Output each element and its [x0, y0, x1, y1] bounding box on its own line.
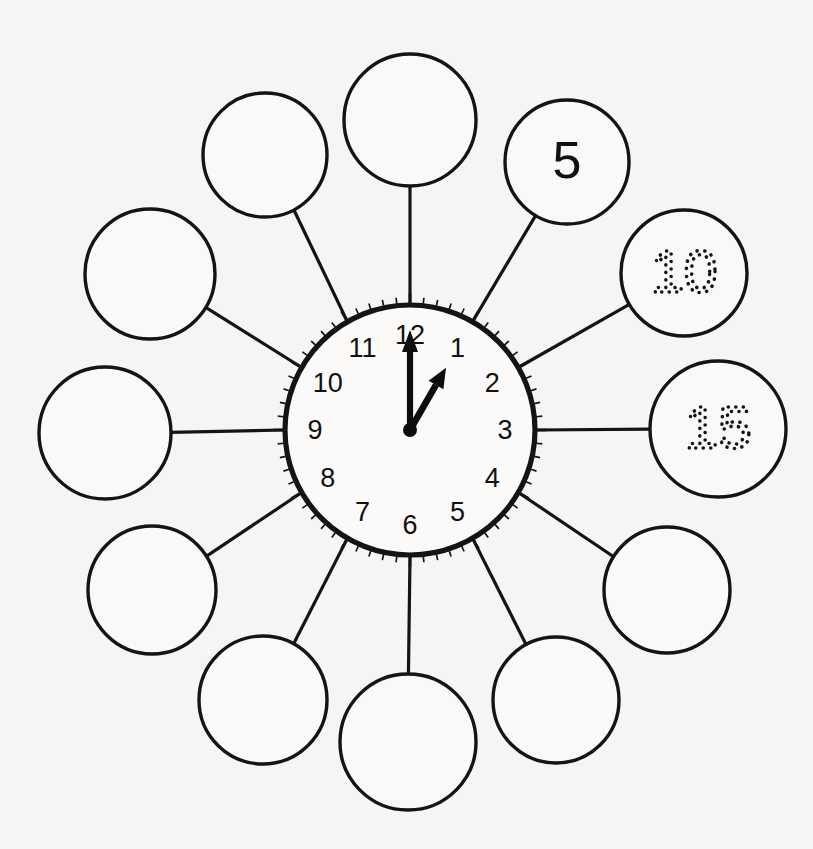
tick-minute — [504, 515, 508, 519]
connector-line-11 — [293, 209, 347, 321]
tick-minute — [462, 546, 464, 551]
clock-numeral-2: 2 — [485, 368, 500, 398]
bubble-value-3: 15 — [685, 394, 752, 461]
bubble-outline-6[interactable] — [340, 674, 476, 810]
answer-bubble-9[interactable] — [39, 367, 171, 499]
tick-minute — [462, 308, 464, 313]
tick-minute — [449, 304, 451, 310]
tick-minute — [332, 322, 336, 327]
tick-minute — [396, 556, 397, 562]
tick-minute — [288, 482, 293, 484]
answer-bubble-11[interactable] — [203, 93, 327, 217]
tick-minute — [513, 352, 518, 356]
tick-minute — [311, 515, 315, 519]
answer-bubble-3[interactable]: 15 — [650, 361, 786, 497]
clock-numeral-5: 5 — [450, 497, 465, 527]
tick-minute — [485, 322, 489, 327]
tick-minute — [382, 300, 383, 306]
connector-line-8 — [206, 493, 301, 557]
tick-minute — [284, 469, 290, 471]
tick-minute — [536, 443, 542, 444]
bubble-value-1: 5 — [553, 131, 582, 189]
tick-minute — [504, 341, 508, 345]
clock-numeral-7: 7 — [355, 497, 370, 527]
connector-line-3 — [536, 429, 651, 430]
bubble-outline-10[interactable] — [85, 209, 215, 339]
answer-bubble-7[interactable] — [199, 636, 327, 764]
tick-minute — [531, 389, 537, 391]
tick-minute — [280, 456, 286, 457]
tick-minute — [495, 524, 499, 528]
tick-minute — [396, 298, 397, 304]
answer-bubble-1[interactable]: 5 — [505, 100, 629, 224]
clock-numeral-1: 1 — [450, 333, 465, 363]
clock-numeral-9: 9 — [307, 415, 322, 445]
tick-minute — [332, 533, 336, 538]
tick-minute — [534, 456, 540, 457]
answer-bubble-12[interactable] — [344, 54, 476, 186]
bubble-outline-12[interactable] — [344, 54, 476, 186]
tick-minute — [382, 554, 383, 560]
tick-minute — [436, 554, 437, 560]
tick-minute — [436, 300, 437, 306]
tick-minute — [526, 482, 531, 484]
tick-minute — [278, 416, 284, 417]
tick-minute — [288, 376, 293, 378]
connector-line-10 — [205, 307, 301, 367]
tick-minute — [449, 551, 451, 557]
bubble-outline-5[interactable] — [493, 637, 619, 763]
bubble-outline-7[interactable] — [199, 636, 327, 764]
answer-bubble-8[interactable] — [88, 526, 216, 654]
tick-minute — [513, 505, 518, 509]
answer-bubble-2[interactable]: 10 — [621, 210, 747, 336]
clock-numeral-10: 10 — [313, 368, 343, 398]
clock-numeral-3: 3 — [497, 415, 512, 445]
tick-minute — [302, 352, 307, 356]
bubble-outline-4[interactable] — [604, 527, 730, 653]
tick-minute — [311, 341, 315, 345]
tick-minute — [280, 402, 286, 403]
clock-counting-worksheet: 51015121234567891011 — [0, 0, 813, 849]
tick-minute — [302, 505, 307, 509]
clock-numeral-6: 6 — [402, 510, 417, 540]
tick-minute — [321, 331, 325, 335]
worksheet-canvas: 51015121234567891011 — [0, 0, 813, 849]
tick-minute — [321, 524, 325, 528]
answer-bubble-5[interactable] — [493, 637, 619, 763]
bubble-outline-8[interactable] — [88, 526, 216, 654]
tick-minute — [534, 402, 540, 403]
tick-minute — [356, 546, 358, 551]
tick-minute — [278, 443, 284, 444]
connector-line-1 — [473, 215, 536, 321]
connector-line-2 — [519, 304, 630, 367]
connector-line-5 — [473, 539, 527, 645]
tick-minute — [423, 298, 424, 304]
clock-numeral-4: 4 — [485, 463, 500, 493]
tick-minute — [369, 551, 371, 557]
connector-line-6 — [408, 556, 410, 675]
clock-center-pin — [403, 423, 417, 437]
bubble-value-2: 10 — [651, 238, 718, 305]
clock-numeral-11: 11 — [348, 333, 376, 363]
answer-bubble-10[interactable] — [85, 209, 215, 339]
clock-numeral-8: 8 — [320, 463, 335, 493]
tick-minute — [526, 376, 531, 378]
bubble-outline-11[interactable] — [203, 93, 327, 217]
answer-bubble-6[interactable] — [340, 674, 476, 810]
clock-face[interactable]: 121234567891011 — [273, 293, 547, 567]
tick-minute — [356, 308, 358, 313]
connector-line-4 — [519, 493, 614, 557]
connector-line-9 — [170, 430, 284, 432]
tick-minute — [369, 304, 371, 310]
tick-minute — [423, 556, 424, 562]
tick-minute — [531, 469, 537, 471]
tick-minute — [485, 533, 489, 538]
connector-line-7 — [293, 539, 347, 645]
tick-minute — [536, 416, 542, 417]
tick-minute — [284, 389, 290, 391]
tick-minute — [495, 331, 499, 335]
bubble-outline-9[interactable] — [39, 367, 171, 499]
answer-bubble-4[interactable] — [604, 527, 730, 653]
